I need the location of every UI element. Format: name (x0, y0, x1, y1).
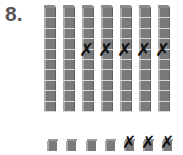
ten-rod-5: ✗ (120, 5, 132, 112)
rod-cube (44, 60, 56, 70)
rod-cube (44, 70, 56, 80)
rod-cube (101, 70, 113, 80)
rod-cube (120, 39, 132, 49)
rod-cube (158, 60, 170, 70)
rod-cube (44, 18, 56, 28)
rod-cube (82, 8, 94, 18)
rod-cube (158, 91, 170, 101)
cube-face (47, 141, 57, 151)
rod-cube (44, 8, 56, 18)
rod-cube (158, 102, 170, 112)
rod-cube (44, 29, 56, 39)
rod-cube (82, 29, 94, 39)
rod-cube (101, 18, 113, 28)
ten-rod-2 (63, 5, 75, 112)
problem-number: 8. (5, 2, 23, 26)
rod-cube (139, 60, 151, 70)
rod-cube (139, 81, 151, 91)
rod-cube (82, 91, 94, 101)
rod-cube (63, 81, 75, 91)
ten-rod-7: ✗ (158, 5, 170, 112)
rod-cube (158, 81, 170, 91)
unit-cube-7: ✗ (162, 139, 173, 151)
rod-cube (82, 102, 94, 112)
rod-cube (158, 18, 170, 28)
rod-cube (120, 81, 132, 91)
rod-cube (101, 60, 113, 70)
rod-cube (44, 102, 56, 112)
ten-rod-3: ✗ (82, 5, 94, 112)
rod-cube (139, 39, 151, 49)
rod-cube (139, 50, 151, 60)
rod-cube (101, 91, 113, 101)
rod-cube (139, 91, 151, 101)
rod-cube (82, 81, 94, 91)
rod-cube (158, 39, 170, 49)
rod-cube (44, 39, 56, 49)
unit-cube-4 (105, 139, 116, 151)
rod-cube (63, 60, 75, 70)
rod-cube (120, 29, 132, 39)
cube-face (124, 141, 134, 151)
rod-cube (82, 60, 94, 70)
unit-cube-1 (47, 139, 58, 151)
rod-cube (120, 91, 132, 101)
rod-cube (82, 70, 94, 80)
rod-cube (63, 8, 75, 18)
rod-cube (101, 8, 113, 18)
cube-face (162, 141, 172, 151)
rod-cube (158, 70, 170, 80)
rod-cube (63, 91, 75, 101)
rod-cube (139, 18, 151, 28)
rod-cube (101, 29, 113, 39)
rod-cube (120, 60, 132, 70)
rod-cube (63, 102, 75, 112)
unit-cube-6: ✗ (143, 139, 154, 151)
rod-cube (44, 50, 56, 60)
rod-cube (139, 29, 151, 39)
rod-cube (63, 50, 75, 60)
rod-cube (120, 102, 132, 112)
rod-cube (120, 18, 132, 28)
rod-cube (82, 50, 94, 60)
ten-rod-4: ✗ (101, 5, 113, 112)
ten-rod-6: ✗ (139, 5, 151, 112)
rod-cube (158, 29, 170, 39)
rod-cube (82, 18, 94, 28)
unit-cube-5: ✗ (124, 139, 135, 151)
rod-cube (139, 70, 151, 80)
rod-cube (63, 18, 75, 28)
rod-cube (158, 50, 170, 60)
rod-cube (158, 8, 170, 18)
rod-cube (63, 29, 75, 39)
ten-rod-1 (44, 5, 56, 112)
unit-cube-2 (66, 139, 77, 151)
cube-face (105, 141, 115, 151)
unit-cube-3 (86, 139, 97, 151)
rod-cube (101, 81, 113, 91)
rod-cube (120, 8, 132, 18)
cube-face (86, 141, 96, 151)
rod-cube (63, 70, 75, 80)
rod-cube (44, 81, 56, 91)
rod-cube (120, 50, 132, 60)
rod-cube (101, 39, 113, 49)
rod-cube (101, 50, 113, 60)
rod-cube (120, 70, 132, 80)
cube-face (143, 141, 153, 151)
cube-face (66, 141, 76, 151)
rod-cube (82, 39, 94, 49)
rod-cube (44, 91, 56, 101)
rod-cube (139, 8, 151, 18)
rod-cube (101, 102, 113, 112)
rod-cube (63, 39, 75, 49)
rod-cube (139, 102, 151, 112)
